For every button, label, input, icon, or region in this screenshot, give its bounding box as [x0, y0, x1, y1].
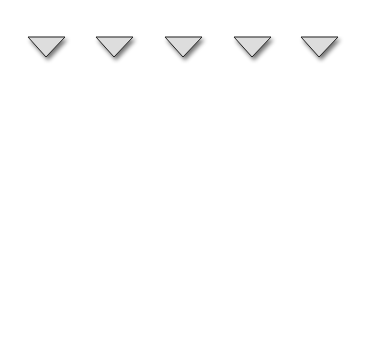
architecture-diagram	[0, 0, 381, 355]
belt-connectors	[28, 37, 338, 57]
conveyor-belt	[28, 37, 338, 57]
